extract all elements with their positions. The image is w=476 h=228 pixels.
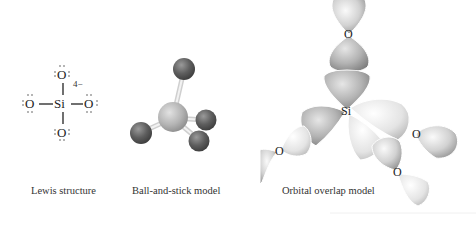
orbital-silicon-center: Si bbox=[341, 104, 351, 119]
orbital-overlap-model bbox=[0, 0, 476, 228]
orbital-oxygen-top: O bbox=[344, 27, 353, 42]
orbital-oxygen-left: O bbox=[275, 144, 284, 159]
orbital-oxygen-right: O bbox=[412, 127, 421, 142]
caption-orbital-overlap-model: Orbital overlap model bbox=[282, 185, 375, 196]
orbital-oxygen-lower: O bbox=[393, 165, 402, 180]
